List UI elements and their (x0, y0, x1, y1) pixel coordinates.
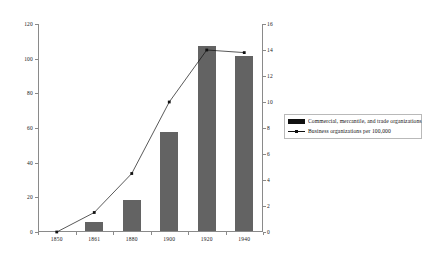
line-marker (93, 211, 96, 214)
right-tick (263, 102, 266, 103)
x-tick (76, 232, 77, 235)
right-tick-label: 12 (267, 73, 287, 79)
line-marker (243, 51, 246, 54)
x-tick (151, 232, 152, 235)
chart-container: 020406080100120 0246810121416 1850186118… (0, 0, 435, 261)
line-series-layer (38, 24, 263, 232)
left-tick-label: 0 (13, 229, 33, 235)
x-tick-label: 1850 (37, 236, 77, 242)
line-marker-swatch-icon (288, 128, 305, 135)
right-tick (263, 76, 266, 77)
x-tick (113, 232, 114, 235)
x-tick (263, 232, 264, 235)
left-tick-label: 100 (13, 56, 33, 62)
right-tick-label: 2 (267, 203, 287, 209)
x-tick-label: 1880 (112, 236, 152, 242)
right-tick-label: 6 (267, 151, 287, 157)
right-tick (263, 154, 266, 155)
left-tick-label: 20 (13, 194, 33, 200)
legend-item-bar-series: Commercial, mercantile, and trade organi… (288, 117, 418, 126)
right-tick (263, 180, 266, 181)
plot-area: 020406080100120 0246810121416 1850186118… (38, 24, 263, 232)
legend-label-bar-series: Commercial, mercantile, and trade organi… (308, 118, 422, 125)
bar-swatch-icon (288, 119, 305, 124)
line-marker (130, 172, 133, 175)
x-tick (226, 232, 227, 235)
right-tick-label: 4 (267, 177, 287, 183)
line-path (57, 50, 245, 232)
left-tick-label: 40 (13, 160, 33, 166)
x-tick (38, 232, 39, 235)
left-tick-label: 60 (13, 125, 33, 131)
legend-label-line-series: Business organizations per 100,000 (308, 128, 391, 135)
x-tick-label: 1861 (74, 236, 114, 242)
line-marker (55, 231, 58, 234)
x-tick-label: 1920 (187, 236, 227, 242)
x-tick-label: 1940 (224, 236, 264, 242)
right-tick-label: 16 (267, 21, 287, 27)
chart-legend: Commercial, mercantile, and trade organi… (284, 114, 422, 139)
left-tick-label: 80 (13, 90, 33, 96)
right-tick-label: 0 (267, 229, 287, 235)
right-tick-label: 14 (267, 47, 287, 53)
right-tick (263, 206, 266, 207)
x-tick-label: 1900 (149, 236, 189, 242)
right-tick (263, 24, 266, 25)
left-tick-label: 120 (13, 21, 33, 27)
line-marker (168, 101, 171, 104)
right-tick (263, 50, 266, 51)
line-marker (205, 49, 208, 52)
legend-item-line-series: Business organizations per 100,000 (288, 127, 418, 136)
x-tick (188, 232, 189, 235)
right-tick-label: 10 (267, 99, 287, 105)
right-tick (263, 128, 266, 129)
